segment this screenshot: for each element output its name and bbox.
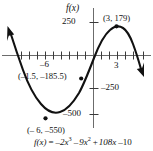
equation-term3-operator: + — [93, 137, 98, 147]
equation-term1-coefficient: –2x — [56, 137, 69, 147]
x-tick-label-3: 3 — [114, 61, 119, 70]
function-graph-figure: f(x) 250 –250 –500 –6 3 (3, 179) (–1.5, … — [0, 0, 153, 151]
point-marker-local-minimum — [43, 116, 47, 120]
y-tick-label-minus250: –250 — [101, 83, 119, 92]
cubic-curve — [11, 27, 142, 113]
y-tick-label-minus500: –500 — [63, 109, 81, 118]
point-label-local-minimum: (– 6, –550) — [27, 126, 65, 135]
x-tick-label-minus6: –6 — [40, 60, 49, 69]
y-axis-label: f(x) — [66, 4, 79, 14]
equation-term2-exponent: 2 — [88, 135, 91, 142]
point-label-inflection: (–1.5, –185.5) — [18, 72, 67, 81]
function-equation: f(x)=–2x3–9x2+108x–10 — [34, 138, 132, 147]
point-marker-local-maximum — [114, 24, 118, 28]
point-label-local-maximum: (3, 179) — [103, 14, 130, 23]
equation-term3-coefficient: 108x — [99, 137, 117, 147]
equation-term1-exponent: 3 — [69, 135, 72, 142]
equation-equals: = — [49, 137, 54, 147]
equation-term2-operator: – — [74, 137, 79, 147]
equation-lhs: f(x) — [34, 137, 47, 147]
y-tick-label-250: 250 — [62, 17, 76, 26]
point-marker-inflection — [79, 76, 83, 80]
equation-term4-coefficient: 10 — [123, 137, 132, 147]
equation-term2-coefficient: 9x — [79, 137, 88, 147]
